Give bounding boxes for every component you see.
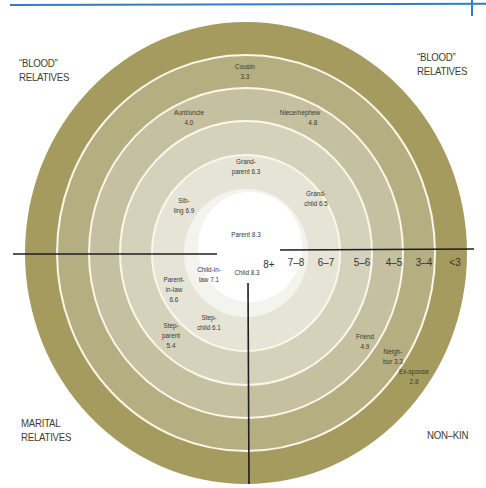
rel-score: 5.4: [162, 341, 180, 351]
rings: [25, 22, 467, 484]
rel-stepchild: Step- child 6.1: [197, 313, 221, 333]
scale-7-8: 7–8: [288, 256, 305, 268]
rel-child: Child 8.3: [234, 268, 259, 278]
rel-name-score: parent 6.3: [232, 167, 261, 177]
rel-name: Ex-spouse: [399, 367, 429, 377]
label-non-kin: NON–KIN: [427, 428, 468, 442]
rel-name: Step-: [197, 313, 221, 323]
rel-name: Grand-: [304, 189, 328, 199]
rel-name: Step-: [162, 321, 180, 331]
label-blood-relatives-right: “BLOOD” RELATIVES: [417, 50, 467, 78]
rel-name: Niece/nephew: [280, 108, 320, 118]
rel-score: 3.3: [235, 72, 255, 82]
rel-name-score: child 6.5: [304, 199, 328, 209]
rel-name: Sib-: [174, 196, 195, 206]
rel-child-in-law: Child-in- law 7.1: [197, 265, 221, 285]
rel-name: Friend: [356, 332, 374, 342]
rel-name: in-law: [164, 285, 185, 295]
rel-name: Child-in-: [197, 265, 221, 275]
rel-name: Aunt/uncle: [174, 108, 204, 118]
scale-4-5: 4–5: [386, 256, 403, 268]
rel-sibling: Sib- ling 6.9: [174, 196, 195, 216]
ring-8plus-center: [198, 192, 302, 302]
scale-8plus: 8+: [263, 258, 274, 270]
scale-3-4: 3–4: [416, 256, 433, 268]
label-line: MARITAL: [21, 416, 71, 430]
rel-score: 4.0: [174, 118, 204, 128]
rel-cousin: Cousin 3.3: [235, 62, 255, 82]
label-line: RELATIVES: [21, 430, 71, 444]
rel-aunt-uncle: Aunt/uncle 4.0: [174, 108, 204, 128]
rel-name: Cousin: [235, 62, 255, 72]
rel-grandchild: Grand- child 6.5: [304, 189, 328, 209]
rel-name-score: bor 3.3: [383, 357, 403, 367]
rel-name-score: ling 6.9: [174, 206, 195, 216]
scale-lt3: <3: [449, 256, 460, 268]
label-line: NON–KIN: [427, 428, 468, 442]
label-line: “BLOOD”: [417, 50, 467, 64]
rel-ex-spouse: Ex-spouse 2.8: [399, 367, 429, 387]
rel-neighbor: Neigh- bor 3.3: [383, 347, 403, 367]
rel-friend: Friend 4.9: [356, 332, 374, 352]
rel-name-score: Parent 8.3: [231, 230, 260, 240]
label-blood-relatives-left: “BLOOD” RELATIVES: [19, 56, 69, 84]
rel-niece-nephew: Niece/nephew 4.8: [280, 108, 320, 128]
label-line: RELATIVES: [417, 64, 467, 78]
scale-5-6: 5–6: [354, 256, 371, 268]
rel-name: Parent-: [164, 275, 185, 285]
rel-parent-in-law: Parent- in-law 6.6: [164, 275, 185, 305]
rel-score: 6.6: [164, 295, 185, 305]
rel-name-score: Child 8.3: [234, 268, 259, 278]
rel-score: 4.8: [305, 118, 320, 128]
rel-name-score: law 7.1: [197, 275, 221, 285]
rel-score: 2.8: [399, 377, 429, 387]
label-line: RELATIVES: [19, 70, 69, 84]
rel-name: Grand-: [232, 157, 261, 167]
rel-name-score: child 6.1: [197, 323, 221, 333]
rel-name: parent: [162, 331, 180, 341]
rel-name: Neigh-: [383, 347, 403, 357]
rel-stepparent: Step- parent 5.4: [162, 321, 180, 351]
label-line: “BLOOD”: [19, 56, 69, 70]
scale-6-7: 6–7: [318, 256, 335, 268]
label-marital-relatives: MARITAL RELATIVES: [21, 416, 71, 444]
rel-score: 4.9: [356, 342, 374, 352]
rel-grandparent: Grand- parent 6.3: [232, 157, 261, 177]
rel-parent: Parent 8.3: [231, 230, 260, 240]
divider-bottom: [248, 283, 249, 484]
divider-right: [280, 249, 474, 250]
